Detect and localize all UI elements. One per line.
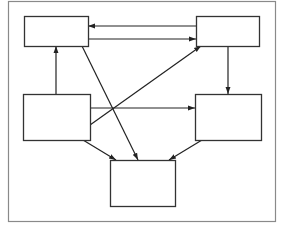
box-middle-right-rect (196, 95, 262, 141)
box-middle-left (24, 95, 91, 141)
box-middle-right (196, 95, 262, 141)
box-bottom-center-rect (111, 161, 176, 207)
box-top-left-rect (25, 17, 89, 47)
box-middle-left-rect (24, 95, 91, 141)
box-bottom-center (111, 161, 176, 207)
box-top-right (197, 17, 260, 47)
diagram-canvas (0, 0, 281, 228)
box-top-left (25, 17, 89, 47)
box-top-right-rect (197, 17, 260, 47)
